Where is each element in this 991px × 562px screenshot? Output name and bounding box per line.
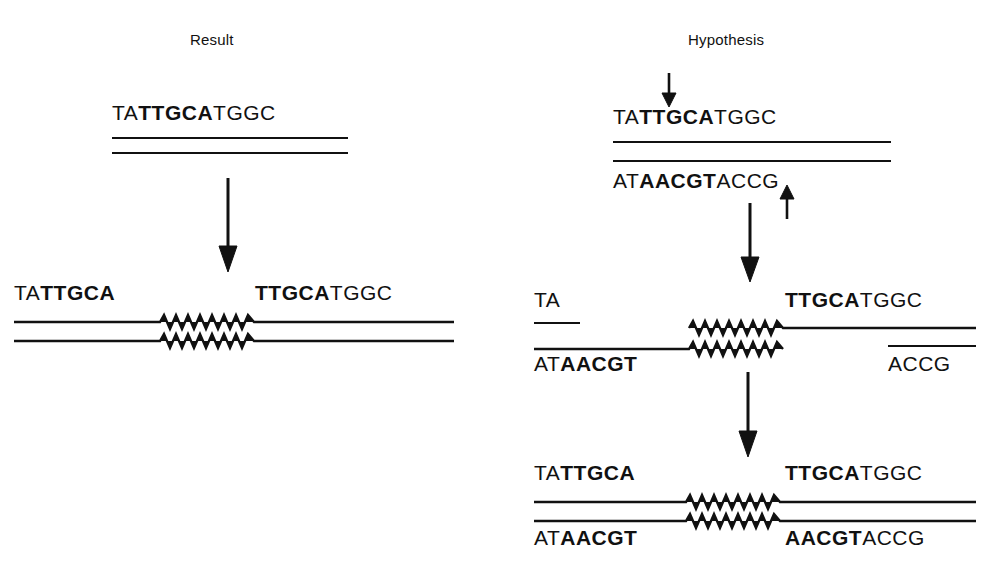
right-stage2-line-bottom-right bbox=[888, 345, 976, 347]
left-stage2-top-strand-left: TATTGCA bbox=[14, 281, 115, 305]
right-stage1-bottom-strand: ATAACGTACCG bbox=[613, 169, 779, 193]
right-stage2-bottom-strand-right: ACCG bbox=[888, 352, 951, 376]
right-stage2-top-strand-right: TTGCATGGC bbox=[785, 288, 923, 312]
left-stage1-strand-line-upper bbox=[112, 137, 348, 139]
right-stage3-duplex-lines bbox=[534, 492, 976, 530]
right-process-arrow-1 bbox=[736, 203, 766, 283]
right-stage3-top-strand-left: TATTGCA bbox=[534, 461, 635, 485]
right-stage3-bottom-strand-left: ATAACGT bbox=[534, 526, 637, 550]
right-stage3-bottom-strand-right: AACGTACCG bbox=[785, 526, 925, 550]
right-stage1-strand-line-upper bbox=[613, 141, 891, 143]
left-stage2-top-strand-right: TTGCATGGC bbox=[255, 281, 393, 305]
right-stage1-top-strand: TATTGCATGGC bbox=[613, 105, 777, 129]
left-stage2-duplex-lines bbox=[14, 312, 454, 350]
left-stage1-top-strand: TATTGCATGGC bbox=[112, 101, 276, 125]
right-process-arrow-2 bbox=[734, 372, 764, 458]
right-stage2-top-strand-left: TA bbox=[534, 288, 560, 312]
right-stage2-bottom-strand-left: ATAACGT bbox=[534, 352, 637, 376]
left-stage1-strand-line-lower bbox=[112, 152, 348, 154]
panel-title-result: Result bbox=[190, 31, 234, 48]
cut-site-arrow-top-icon bbox=[658, 73, 682, 109]
left-process-arrow bbox=[214, 178, 244, 273]
cut-site-arrow-bottom-icon bbox=[776, 183, 800, 219]
right-stage1-strand-line-lower bbox=[613, 160, 891, 162]
right-stage3-top-strand-right: TTGCATGGC bbox=[785, 461, 923, 485]
panel-title-hypothesis: Hypothesis bbox=[688, 31, 764, 48]
